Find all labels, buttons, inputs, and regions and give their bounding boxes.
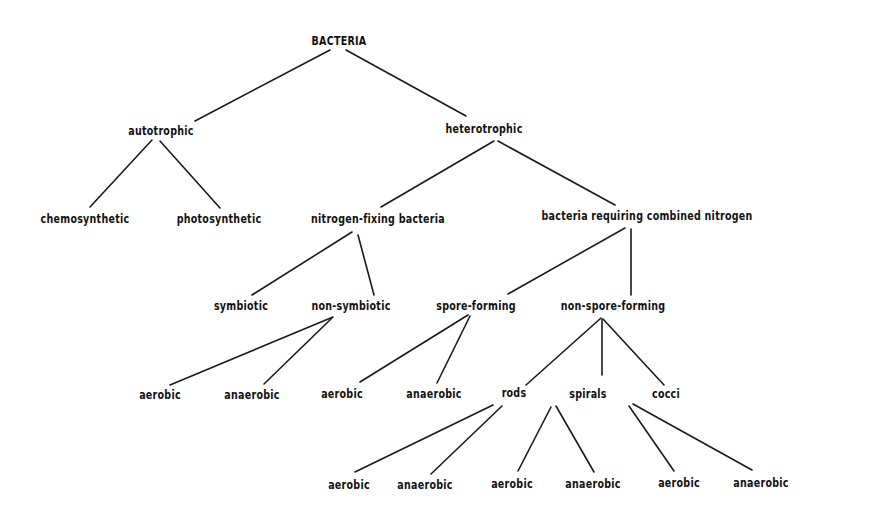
- node-spore-forming-anaerobic: anaerobic: [403, 387, 466, 401]
- node-cocci: cocci: [650, 387, 682, 401]
- edge-n0-n2: [346, 50, 466, 116]
- node-heterotrophic: heterotrophic: [440, 122, 528, 136]
- edge-n6-n9: [508, 228, 625, 294]
- node-bacteria-root: BACTERIA: [308, 34, 370, 48]
- edge-n9-n13: [360, 315, 468, 382]
- edge-n10-n15: [526, 318, 601, 385]
- node-rods-aerobic: aerobic: [325, 478, 372, 492]
- edge-n10-n17: [603, 319, 664, 385]
- node-rods: rods: [500, 386, 528, 400]
- edge-n9-n14: [437, 316, 470, 383]
- edge-n1-n3: [90, 140, 152, 207]
- edge-n5-n7: [252, 232, 352, 295]
- node-photosynthetic: photosynthetic: [171, 212, 267, 226]
- node-chemosynthetic: chemosynthetic: [35, 212, 136, 226]
- edge-n16-n21: [556, 406, 594, 472]
- edge-n8-n12: [264, 318, 332, 384]
- node-spore-forming: spore-forming: [431, 299, 521, 313]
- edge-n0-n1: [195, 50, 330, 121]
- edge-n16-n20: [518, 407, 551, 471]
- node-non-symbiotic: non-symbiotic: [306, 299, 396, 313]
- node-combined-nitrogen: bacteria requiring combined nitrogen: [527, 209, 767, 223]
- edge-n8-n11: [170, 317, 333, 385]
- edge-n5-n8: [358, 235, 374, 295]
- edge-n17-n22: [629, 406, 674, 471]
- node-spirals-anaerobic: anaerobic: [562, 477, 625, 491]
- edge-n1-n4: [160, 141, 220, 208]
- node-nitrogen-fixing: nitrogen-fixing bacteria: [302, 212, 454, 226]
- tree-connectors: [0, 0, 888, 523]
- edge-n15-n19: [431, 406, 502, 474]
- node-autotrophic: autotrophic: [124, 124, 198, 138]
- node-non-symbiotic-anaerobic: anaerobic: [221, 388, 284, 402]
- node-non-symbiotic-aerobic: aerobic: [136, 388, 183, 402]
- edge-n15-n18: [355, 405, 493, 472]
- node-rods-anaerobic: anaerobic: [394, 478, 457, 492]
- node-non-spore-forming: non-spore-forming: [554, 299, 673, 313]
- node-spirals-aerobic: aerobic: [488, 477, 535, 491]
- node-cocci-anaerobic: anaerobic: [730, 476, 793, 490]
- node-spirals: spirals: [567, 387, 610, 401]
- node-spore-forming-aerobic: aerobic: [318, 387, 365, 401]
- edge-n2-n6: [498, 141, 615, 205]
- node-cocci-aerobic: aerobic: [655, 476, 702, 490]
- edge-n2-n5: [381, 141, 494, 207]
- node-symbiotic: symbiotic: [210, 299, 272, 313]
